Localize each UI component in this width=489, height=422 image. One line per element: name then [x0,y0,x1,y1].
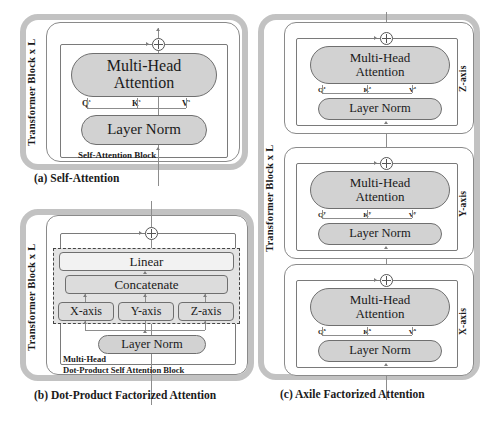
arrow-x-concat [83,294,87,297]
transformer-block-label-c: Transformer Block x L [264,110,275,286]
residual-arrow-z [374,36,377,40]
layer-norm-block-y[interactable]: Layer Norm [318,223,442,245]
panel-c-caption: (c) Axile Factorized Attention [280,388,425,400]
concatenate-block-b[interactable]: Concatenate [65,275,228,294]
z-axis-label-b: Z-axis [191,304,222,319]
layer-norm-input-arrow-z [384,121,388,124]
y-axis-block-b[interactable]: Y-axis [118,302,174,321]
axis-label-z: Z-axis [458,52,468,106]
arrow-concat-linear [143,271,147,274]
layer-norm-block-z[interactable]: Layer Norm [318,98,442,120]
panel-b-caption: (b) Dot-Product Factorized Attention [34,389,216,401]
axis-block-x: Multi-Head Attention Qx Kx Vx Layer Norm… [284,264,474,376]
layer-norm-label-z: Layer Norm [349,102,410,115]
residual-add-icon-x [380,274,393,287]
qkv-branch-q-a [87,98,88,108]
multi-head-attention-block-a[interactable]: Multi-Head Attention [71,53,217,97]
qkv-branch-k-a [137,98,138,108]
layer-norm-input-arrow-x [384,363,388,366]
layer-norm-label-b: Layer Norm [121,338,182,351]
residual-arrow-x [374,278,377,282]
qkv-branch-k-y [367,210,368,218]
qkv-labels-a: Qs Ks Vs [82,98,190,108]
dot-product-block-label-line1: Multi-Head [63,354,106,364]
qkv-bus-z [322,93,412,94]
z-axis-block-b[interactable]: Z-axis [178,302,234,321]
x-axis-block-b[interactable]: X-axis [58,302,114,321]
x-axis-label-b: X-axis [70,304,102,319]
panel-dot-product-factorized-attention: Transformer Block x L Linear Concatenate… [20,209,256,405]
arrow-in-x [83,321,87,324]
dot-product-block-label-line2: Dot-Product Self Attention Block [63,365,184,375]
panel-self-attention: Transformer Block x L Multi-Head Attenti… [20,14,248,186]
multi-head-attention-label-y-line1: Multi-Head [350,176,411,190]
y-axis-label-b: Y-axis [131,304,162,319]
qkv-bus-a [87,108,186,109]
transformer-block-label-b: Transformer Block x L [26,229,37,365]
qkv-branch-v-y [412,210,413,218]
layer-norm-input-arrow-y [384,246,388,249]
connector-in-y [145,321,146,330]
layer-norm-label-x: Layer Norm [349,344,410,357]
arrow-ln-to-bus-b [143,330,147,333]
multi-head-attention-label-line1: Multi-Head [107,58,182,75]
panel-a-caption: (a) Self-Attention [34,172,119,184]
qkv-branch-q-z [322,85,323,93]
qkv-branch-v-a [186,98,187,108]
qkv-branch-v-z [412,85,413,93]
layer-norm-block-b[interactable]: Layer Norm [98,335,206,354]
multi-head-attention-label-x-line2: Attention [355,307,404,321]
multi-head-attention-block-y[interactable]: Multi-Head Attention [310,171,450,209]
linear-block-b[interactable]: Linear [59,252,234,271]
arrow-y-concat [143,294,147,297]
residual-arrow-y [374,161,377,165]
arrow-z-concat [203,294,207,297]
layer-norm-block-a[interactable]: Layer Norm [81,115,207,145]
qkv-branch-q-x [322,327,323,335]
residual-arrow-a [146,42,149,46]
concatenate-label-b: Concatenate [114,277,178,293]
multi-head-attention-block-x[interactable]: Multi-Head Attention [310,288,450,326]
layer-norm-block-x[interactable]: Layer Norm [318,340,442,362]
qkv-bus-y [322,218,412,219]
multi-head-attention-block-z[interactable]: Multi-Head Attention [310,46,450,84]
residual-arrow-b [139,231,142,235]
axis-label-x: X-axis [458,294,468,348]
residual-add-icon-a [152,38,165,51]
multi-head-attention-label-line2: Attention [114,75,174,92]
qkv-branch-v-x [412,327,413,335]
transformer-block-label-a: Transformer Block x L [26,30,37,154]
multi-head-attention-label-z-line1: Multi-Head [350,51,411,65]
residual-add-icon-y [380,157,393,170]
residual-add-icon-z [380,32,393,45]
qkv-branch-k-z [367,85,368,93]
axis-label-y: Y-axis [458,177,468,231]
layer-norm-label-a: Layer Norm [107,122,181,138]
arrow-in-z [203,321,207,324]
residual-add-icon-b [145,227,158,240]
qkv-branch-k-x [367,327,368,335]
linear-label-b: Linear [130,254,164,270]
panel-axile-factorized-attention: Transformer Block x L Multi-Head Attenti… [258,14,486,406]
qkv-bus-x [322,335,412,336]
multi-head-attention-label-z-line2: Attention [355,65,404,79]
layer-norm-label-y: Layer Norm [349,227,410,240]
qkv-branch-q-y [322,210,323,218]
multi-head-attention-label-y-line2: Attention [355,190,404,204]
axis-block-y: Multi-Head Attention Qy Ky Vy Layer Norm… [284,147,474,259]
self-attention-block-label: Self-Attention Block [78,150,156,160]
multi-head-attention-label-x-line1: Multi-Head [350,293,411,307]
output-arrow-a [156,28,160,31]
axis-block-z: Multi-Head Attention Qz Kz Vz Layer Norm… [284,22,474,134]
